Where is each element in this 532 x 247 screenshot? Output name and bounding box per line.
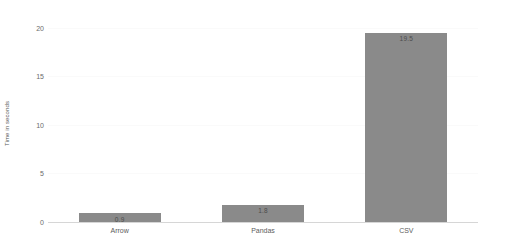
y-tick-label: 15 [18, 73, 44, 80]
y-axis-ticks: 05101520 [18, 0, 44, 247]
category-label: CSV [365, 227, 447, 234]
x-axis-category-labels: ArrowPandasCSV [48, 0, 478, 247]
y-tick-label: 5 [18, 170, 44, 177]
bar-chart: Time in seconds 05101520 0.91.819.5 Arro… [0, 0, 532, 247]
y-axis-title: Time in seconds [0, 0, 14, 247]
y-tick-label: 10 [18, 121, 44, 128]
category-label: Pandas [222, 227, 304, 234]
y-tick-label: 0 [18, 219, 44, 226]
category-label: Arrow [79, 227, 161, 234]
y-tick-label: 20 [18, 24, 44, 31]
